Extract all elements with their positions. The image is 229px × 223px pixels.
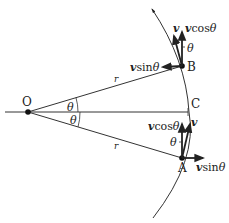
diagram-canvas: O C B A r r θ θ v vcosθ θ vsinθ v vcosθ … [0, 0, 229, 223]
label-theta-A: θ [170, 136, 177, 149]
vcos-ang-A: θ [173, 120, 180, 133]
angle-arc-upper [76, 98, 78, 112]
vcos-fn-A: cos [154, 120, 173, 133]
point-O [25, 109, 31, 115]
label-r-upper: r [114, 74, 119, 84]
vsin-ang-A: θ [219, 161, 226, 174]
vsin-ang-B: θ [153, 61, 160, 74]
vsin-fn-A: sin [202, 161, 218, 174]
label-B: B [187, 60, 196, 74]
label-vsin-B: vsinθ [130, 61, 160, 74]
vcos-ang-B: θ [210, 22, 217, 35]
label-theta-lower: θ [70, 114, 77, 127]
vsin-vector-B [163, 66, 182, 67]
label-theta-upper: θ [67, 101, 74, 114]
label-O: O [22, 95, 32, 109]
angle-arc-lower [78, 112, 80, 127]
label-r-lower: r [114, 141, 119, 151]
circular-motion-diagram: O C B A r r θ θ v vcosθ θ vsinθ v vcosθ … [0, 0, 229, 223]
vsin-fn-B: sin [136, 61, 152, 74]
label-theta-B: θ [187, 42, 194, 55]
velocity-vector-A [182, 124, 190, 158]
label-vsin-A: vsinθ [196, 161, 226, 174]
label-vcos-A: vcosθ [148, 120, 180, 133]
label-v-B: v [173, 22, 180, 35]
vcos-fn-B: cos [191, 22, 210, 35]
label-A: A [177, 161, 187, 175]
circular-path-arc [152, 9, 191, 218]
label-C: C [191, 97, 200, 111]
radius-line-OA [28, 112, 182, 158]
label-v-A: v [191, 116, 198, 129]
label-vcos-B: vcosθ [185, 22, 217, 35]
